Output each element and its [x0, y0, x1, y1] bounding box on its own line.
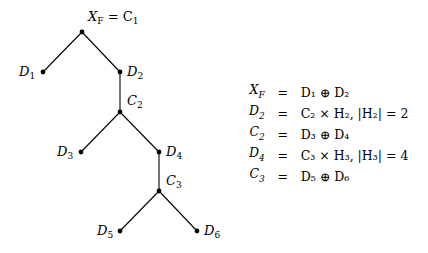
equation-block: XF = D₁ ⊕ D₂ D2 = C₂ × H₂, |H₂| = 2 C2 =… [249, 82, 408, 187]
label-d6: D6 [204, 224, 220, 242]
label-d3-sub: 3 [67, 151, 73, 161]
label-c3: C3 [166, 174, 182, 192]
equation-rhs: D₅ ⊕ D₆ [301, 166, 409, 187]
equation-rhs: D₃ ⊕ D₄ [301, 124, 409, 145]
node-d1 [41, 70, 46, 75]
label-d4: D4 [166, 145, 182, 163]
equation-table: XF = D₁ ⊕ D₂ D2 = C₂ × H₂, |H₂| = 2 C2 =… [249, 82, 408, 187]
node-d5 [118, 229, 123, 234]
label-d6-sub: 6 [214, 230, 220, 240]
node-d3 [79, 150, 84, 155]
label-c3-sub: 3 [176, 180, 182, 190]
edge-root-d2 [82, 32, 120, 72]
node-d2 [118, 70, 123, 75]
label-d3-main: D [57, 144, 67, 159]
node-c2 [118, 110, 123, 115]
equation-lhs: C3 [249, 166, 265, 187]
equation-lhs: D2 [249, 103, 265, 124]
label-c2: C2 [127, 94, 143, 112]
label-d5-sub: 5 [107, 230, 113, 240]
label-d2: D2 [127, 65, 143, 83]
equation-op: = [265, 103, 301, 124]
equation-op: = [265, 166, 301, 187]
equation-lhs: D4 [249, 145, 265, 166]
edge-c3-d6 [159, 191, 197, 231]
equation-rhs: C₂ × H₂, |H₂| = 2 [301, 103, 409, 124]
equation-row: C2 = D₃ ⊕ D₄ [249, 124, 408, 145]
label-d2-sub: 2 [137, 71, 143, 81]
equation-row: D4 = C₃ × H₃, |H₃| = 4 [249, 145, 408, 166]
edge-root-d1 [43, 32, 82, 72]
node-root [80, 30, 85, 35]
label-c3-main: C [166, 173, 176, 188]
equation-row: C3 = D₅ ⊕ D₆ [249, 166, 408, 187]
equation-row: D2 = C₂ × H₂, |H₂| = 2 [249, 103, 408, 124]
label-d4-main: D [166, 144, 176, 159]
edge-c2-d3 [81, 112, 120, 152]
equation-op: = [265, 124, 301, 145]
label-d1-sub: 1 [29, 71, 35, 81]
label-root-rest: = C [104, 9, 133, 24]
label-d2-main: D [127, 64, 137, 79]
node-d4 [157, 150, 162, 155]
label-root-main: X [88, 9, 97, 24]
label-root: XF = C1 [88, 10, 138, 28]
label-c2-sub: 2 [137, 100, 143, 110]
label-d6-main: D [204, 223, 214, 238]
equation-lhs: XF [249, 82, 265, 103]
tree-nodes [41, 30, 200, 234]
label-d5-main: D [97, 223, 107, 238]
label-root-rest-sub: 1 [133, 16, 139, 26]
tree-edges [43, 32, 197, 231]
node-c3 [157, 189, 162, 194]
equation-op: = [265, 145, 301, 166]
equation-rhs: C₃ × H₃, |H₃| = 4 [301, 145, 409, 166]
label-d4-sub: 4 [176, 151, 182, 161]
equation-rhs: D₁ ⊕ D₂ [301, 82, 409, 103]
label-d1-main: D [19, 64, 29, 79]
edge-c2-d4 [120, 112, 159, 152]
equation-row: XF = D₁ ⊕ D₂ [249, 82, 408, 103]
label-d5: D5 [97, 224, 113, 242]
edge-c3-d5 [120, 191, 159, 231]
label-c2-main: C [127, 93, 137, 108]
label-d1: D1 [19, 65, 35, 83]
equation-op: = [265, 82, 301, 103]
node-d6 [195, 229, 200, 234]
label-d3: D3 [57, 145, 73, 163]
equation-lhs: C2 [249, 124, 265, 145]
